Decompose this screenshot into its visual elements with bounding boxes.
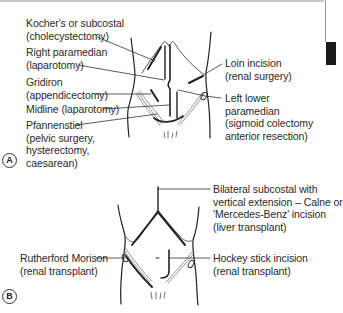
label-left-lower-paramedian: Left lower paramedian (sigmoid colectomy… — [225, 92, 313, 142]
panel-b-badge: B — [2, 289, 17, 304]
label-loin-incision: Loin incision (renal surgery) — [225, 57, 292, 82]
label-rutherford-morison: Rutherford Morison (renal transplant) — [20, 252, 108, 277]
label-pfannenstiel: Pfannenstiel (pelvic surgery, hysterecto… — [26, 119, 95, 169]
label-gridiron: Gridiron (appendicectomy) — [26, 76, 108, 101]
label-kocher-subcostal: Kocher's or subcostal (cholecystectomy) — [26, 17, 124, 42]
label-hockey-stick: Hockey stick incision (renal transplant) — [213, 252, 308, 277]
panel-b-torso-outline — [118, 205, 199, 305]
panel-a-incisions — [148, 45, 208, 122]
label-right-paramedian: Right paramedian (laparotomy) — [26, 46, 107, 71]
panel-b-incisions — [121, 187, 195, 287]
label-midline: Midline (laparotomy) — [26, 103, 119, 116]
label-bilateral-subcostal: Bilateral subcostal with vertical extens… — [213, 183, 343, 233]
panel-a-badge: A — [2, 153, 17, 168]
